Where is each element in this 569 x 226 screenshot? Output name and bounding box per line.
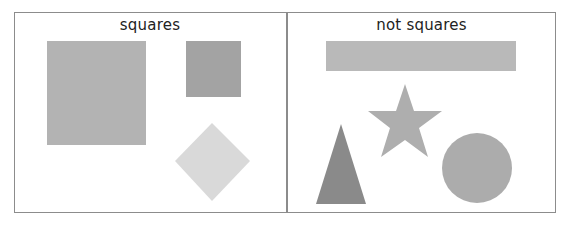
triangle	[316, 124, 366, 204]
shapes-canvas	[0, 0, 569, 226]
circle	[442, 133, 512, 203]
rectangle	[326, 41, 516, 71]
small-square	[186, 41, 241, 97]
diamond-square	[175, 123, 250, 201]
large-square	[47, 41, 146, 145]
star	[368, 84, 442, 157]
